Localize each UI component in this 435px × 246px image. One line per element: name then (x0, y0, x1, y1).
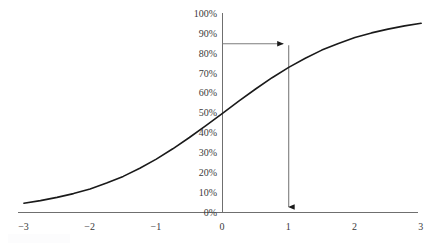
y-tick-label-0: 0% (183, 208, 217, 218)
y-tick-label-40: 40% (183, 128, 217, 138)
y-tick-label-10: 10% (183, 188, 217, 198)
x-tick-label-0: 0 (209, 222, 235, 232)
y-tick-label-80: 80% (183, 49, 217, 59)
x-tick-label-minus2: −2 (77, 222, 103, 232)
y-tick-label-30: 30% (183, 148, 217, 158)
x-tick-label-2: 2 (342, 222, 368, 232)
chart-canvas (0, 0, 435, 246)
y-tick-label-90: 90% (183, 29, 217, 39)
y-tick-label-60: 60% (183, 88, 217, 98)
y-tick-label-50: 50% (183, 108, 217, 118)
y-tick-label-20: 20% (183, 168, 217, 178)
x-tick-label-minus1: −1 (143, 222, 169, 232)
y-tick-label-100: 100% (183, 9, 217, 19)
page-artifact-smudge (8, 234, 70, 243)
y-tick-label-70: 70% (183, 69, 217, 79)
x-tick-label-1: 1 (275, 222, 301, 232)
x-tick-label-3: 3 (408, 222, 434, 232)
x-tick-label-minus3: −3 (11, 222, 37, 232)
sigmoid-chart-figure: 100% 90% 80% 70% 60% 50% 40% 30% 20% 10%… (0, 0, 435, 246)
